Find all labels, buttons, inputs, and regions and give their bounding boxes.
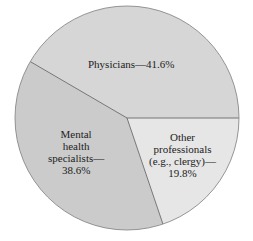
label-other-professionals: Other professionals (e.g., clergy)— 19.8… bbox=[149, 131, 216, 179]
label-mental-health-specialists: Mental health specialists— 38.6% bbox=[48, 128, 104, 176]
pie-svg bbox=[0, 0, 253, 241]
label-physicians: Physicians—41.6% bbox=[88, 58, 174, 70]
pie-chart: Physicians—41.6% Mental health specialis… bbox=[0, 0, 253, 241]
